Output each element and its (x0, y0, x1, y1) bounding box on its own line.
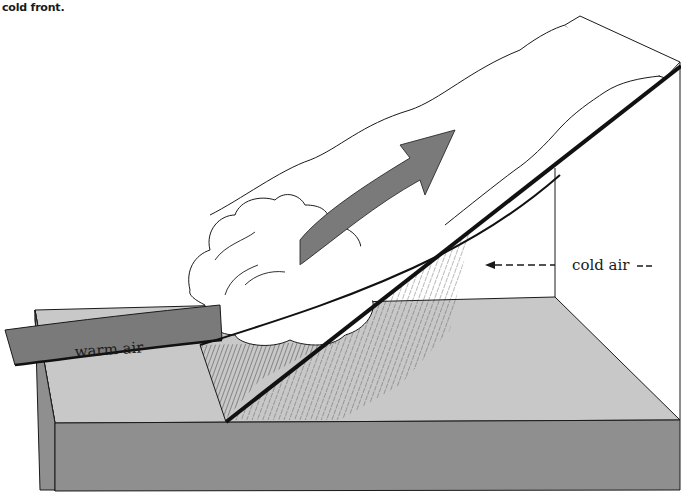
ground-front-side (55, 420, 680, 491)
cold-air-indicator: cold air (485, 256, 652, 274)
arrow-left-icon (485, 261, 495, 269)
cold-air-label: cold air (572, 256, 630, 274)
cold-front-diagram: warm air cold air (0, 0, 681, 501)
